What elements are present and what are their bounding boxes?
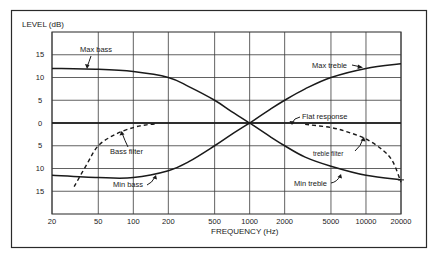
annotation-max-bass: Max bass bbox=[80, 45, 112, 54]
y-tick-label: 15 bbox=[36, 50, 44, 59]
x-tick-label: 50 bbox=[94, 217, 102, 226]
y-axis-title: LEVEL (dB) bbox=[22, 20, 64, 29]
arrowhead-icon bbox=[338, 174, 343, 179]
x-tick-label: 2000 bbox=[276, 217, 293, 226]
outer-frame bbox=[12, 11, 427, 248]
chart-canvas: 20501002005001000200050001000020000 1510… bbox=[0, 0, 435, 260]
x-tick-label: 200 bbox=[162, 217, 175, 226]
y-tick-label: 5 bbox=[38, 141, 42, 150]
y-tick-label: 5 bbox=[38, 96, 42, 105]
y-tick-label: 0 bbox=[38, 119, 42, 128]
curve-min-bass bbox=[52, 123, 250, 178]
x-tick-labels: 20501002005001000200050001000020000 bbox=[48, 217, 412, 226]
annotation-max-treble: Max treble bbox=[312, 61, 347, 70]
x-tick-label: 20 bbox=[48, 217, 56, 226]
x-tick-label: 100 bbox=[127, 217, 140, 226]
x-tick-label: 20000 bbox=[391, 217, 412, 226]
annotation-treble-filter: treble filter bbox=[313, 150, 344, 157]
annotation-flat-response: Flat response bbox=[302, 112, 347, 121]
y-tick-label: 10 bbox=[36, 164, 44, 173]
arrowhead-icon bbox=[358, 65, 364, 70]
annotation-bass-filter: Bass filter bbox=[110, 147, 143, 156]
frequency-response-chart: 20501002005001000200050001000020000 1510… bbox=[0, 0, 435, 260]
x-tick-label: 5000 bbox=[323, 217, 340, 226]
x-tick-label: 500 bbox=[208, 217, 221, 226]
annotation-min-bass: Min bass bbox=[113, 180, 143, 189]
annotation-arrow-bass-filter bbox=[122, 133, 128, 147]
x-tick-label: 1000 bbox=[241, 217, 258, 226]
y-tick-label: 15 bbox=[36, 187, 44, 196]
annotation-arrow-treble-filter bbox=[355, 139, 363, 151]
y-tick-labels: 15105051015 bbox=[36, 50, 44, 196]
annotation-min-treble: Min treble bbox=[294, 179, 327, 188]
arrowhead-icon bbox=[153, 175, 158, 180]
curve-max-bass bbox=[52, 68, 250, 123]
x-tick-label: 10000 bbox=[356, 217, 377, 226]
x-axis-title: FREQUENCY (Hz) bbox=[211, 227, 279, 236]
y-tick-label: 10 bbox=[36, 73, 44, 82]
